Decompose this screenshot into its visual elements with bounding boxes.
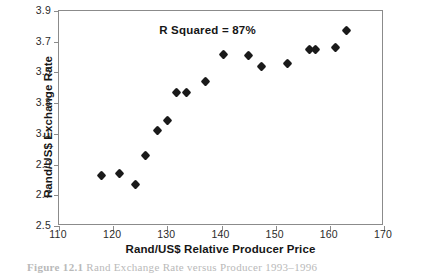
y-axis-tick-label: 2.5 [36,219,51,231]
y-axis-tick [54,11,59,12]
y-axis-tick [54,134,59,135]
data-point [341,26,351,36]
x-axis-tick-label: 160 [320,228,338,240]
caption-label: Figure [27,261,60,273]
data-point [201,77,211,87]
y-axis-tick-label: 3.5 [36,65,51,77]
y-axis-tick-label: 3.1 [36,127,51,139]
y-axis-tick-label: 3.9 [36,4,51,16]
y-axis-tick-label: 3.3 [36,96,51,108]
plot-frame: R Squared = 87% [58,10,383,225]
data-point [140,150,150,160]
data-point [330,43,340,53]
y-axis-tick-label: 2.7 [36,188,51,200]
x-axis-tick-label: 170 [374,228,392,240]
figure-caption: Figure 12.1 Rand Exchange Rate versus Pr… [27,261,317,273]
data-point [311,44,321,54]
y-axis-tick [54,165,59,166]
data-point [172,87,182,97]
data-point [244,51,254,61]
x-axis-title: Rand/US$ Relative Producer Price [58,243,383,255]
x-axis-tick-label: 130 [157,228,175,240]
data-point [182,87,192,97]
figure-container: Rand/US$ Exchange Rate R Squared = 87% R… [0,0,433,273]
data-point [257,61,267,71]
y-axis-tick [54,103,59,104]
x-axis-tick-label: 150 [266,228,284,240]
data-point [283,58,293,68]
caption-number: 12.1 [63,261,83,273]
y-axis-tick-label: 3.7 [36,35,51,47]
y-axis-tick [54,72,59,73]
x-axis-tick-label: 120 [103,228,121,240]
r-squared-annotation: R Squared = 87% [159,24,256,36]
data-point [163,115,173,125]
y-axis-tick [54,42,59,43]
data-point [115,169,125,179]
y-axis-tick [54,195,59,196]
y-axis-tick-label: 2.9 [36,158,51,170]
data-point [96,170,106,180]
data-point [131,180,141,190]
x-axis-tick-label: 140 [211,228,229,240]
plot-area [59,11,382,224]
data-point [218,49,228,59]
data-point [152,126,162,136]
x-axis-tick-label: 110 [49,228,66,240]
caption-text: Rand Exchange Rate versus Producer 1993–… [86,261,317,273]
